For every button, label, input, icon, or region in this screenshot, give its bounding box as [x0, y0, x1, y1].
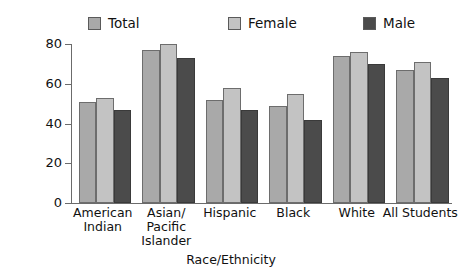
x-category-label-line: Islander [129, 234, 205, 248]
bar-male-2 [241, 110, 259, 203]
chart-legend: Total Female Male [0, 14, 462, 36]
legend-item-total: Total [88, 16, 140, 30]
legend-label-female: Female [248, 16, 297, 30]
bar-female-3 [287, 94, 305, 203]
bar-female-2 [223, 88, 241, 203]
y-tick-label-60: 60 [45, 77, 62, 90]
bar-total-0 [79, 102, 97, 203]
y-tick-label-40: 40 [45, 117, 62, 130]
bar-group [396, 44, 449, 203]
legend-item-male: Male [363, 16, 415, 30]
legend-swatch-total [88, 17, 101, 30]
legend-swatch-male [363, 17, 376, 30]
bar-total-5 [396, 70, 414, 203]
x-category-label-line: All Students [383, 206, 459, 220]
x-axis-title: Race/Ethnicity [0, 252, 462, 267]
bar-female-5 [414, 62, 432, 203]
bar-group [142, 44, 195, 203]
bar-male-5 [431, 78, 449, 203]
bar-total-4 [333, 56, 351, 203]
bar-group [269, 44, 322, 203]
x-category-label: All Students [383, 206, 459, 220]
bar-group [206, 44, 259, 203]
x-axis-category-labels: AmericanIndianAsian/PacificIslanderHispa… [71, 206, 452, 254]
y-tick-0 [65, 203, 71, 204]
legend-label-total: Total [108, 16, 140, 30]
bar-total-2 [206, 100, 224, 203]
bar-female-1 [160, 44, 178, 203]
bar-group [333, 44, 386, 203]
y-tick-label-80: 80 [45, 37, 62, 50]
x-category-label-line: Pacific [129, 220, 205, 234]
plot-area [71, 44, 452, 203]
bar-male-1 [177, 58, 195, 203]
bar-groups [71, 44, 452, 203]
bar-group [79, 44, 132, 203]
bar-chart: Total Female Male Percent of graduates 0… [0, 0, 462, 275]
bar-female-4 [350, 52, 368, 203]
legend-label-male: Male [383, 16, 415, 30]
y-axis-tick-labels: 020406080 [0, 44, 62, 204]
bar-male-4 [368, 64, 386, 203]
bar-male-3 [304, 120, 322, 203]
legend-item-female: Female [228, 16, 297, 30]
x-axis-line [71, 203, 452, 204]
y-tick-label-20: 20 [45, 156, 62, 169]
y-tick-label-0: 0 [54, 196, 62, 209]
bar-female-0 [96, 98, 114, 203]
bar-total-1 [142, 50, 160, 203]
legend-swatch-female [228, 17, 241, 30]
bar-male-0 [114, 110, 132, 203]
bar-total-3 [269, 106, 287, 203]
